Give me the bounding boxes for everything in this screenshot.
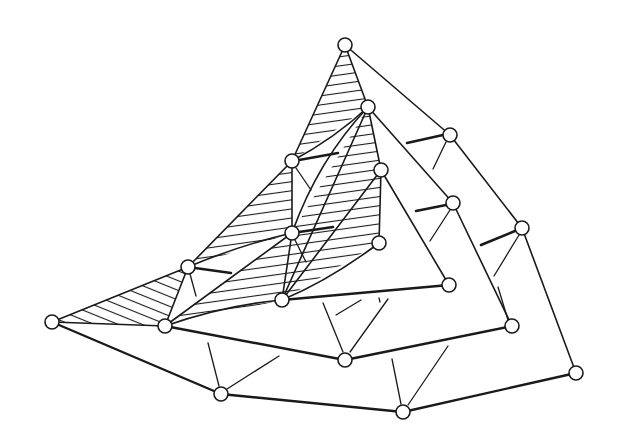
stub-o-right: [408, 346, 448, 405]
stub-q-left: [416, 205, 446, 211]
node-o[interactable]: [396, 405, 410, 419]
node-s[interactable]: [443, 128, 457, 142]
edge-m-l: [345, 326, 512, 360]
node-g[interactable]: [181, 260, 195, 274]
node-l[interactable]: [505, 319, 519, 333]
edge-r-p: [522, 228, 576, 373]
stub-s-down: [433, 142, 446, 169]
node-n[interactable]: [214, 387, 228, 401]
edge-n-o: [221, 394, 403, 412]
stub-n-right: [227, 356, 279, 389]
stub-m-left: [323, 303, 343, 352]
node-j[interactable]: [158, 319, 172, 333]
stub-g-down: [190, 274, 196, 296]
stub-r-down: [494, 235, 519, 276]
node-i[interactable]: [45, 315, 59, 329]
diagram-canvas: [0, 0, 625, 445]
node-p[interactable]: [569, 366, 583, 380]
stub-q-down: [430, 210, 450, 241]
node-m[interactable]: [338, 353, 352, 367]
edge-o-p: [403, 373, 576, 412]
stub-r-left: [481, 231, 515, 245]
stub-mid-2: [379, 298, 380, 302]
node-d[interactable]: [374, 163, 388, 177]
node-f[interactable]: [372, 236, 386, 250]
graph-diagram: [0, 0, 625, 445]
stub-o-left: [392, 359, 401, 404]
node-c[interactable]: [285, 154, 299, 168]
edge-h-k: [282, 285, 449, 300]
stub-g-right: [195, 268, 231, 273]
stub-m-right: [350, 299, 388, 352]
stub-l-up: [498, 287, 508, 320]
node-e[interactable]: [285, 226, 299, 240]
stub-mid-1: [336, 300, 361, 315]
node-a[interactable]: [338, 38, 352, 52]
node-b[interactable]: [361, 100, 375, 114]
edge-q-l: [453, 203, 512, 326]
node-k[interactable]: [442, 278, 456, 292]
node-h[interactable]: [275, 293, 289, 307]
stub-n-left: [208, 343, 219, 386]
edge-s-r: [450, 135, 522, 228]
node-r[interactable]: [515, 221, 529, 235]
hatched-regions: [52, 45, 381, 326]
stub-s-left: [407, 135, 443, 143]
edge-j-m: [165, 326, 345, 360]
node-q[interactable]: [446, 196, 460, 210]
stub-c-down: [296, 168, 311, 190]
